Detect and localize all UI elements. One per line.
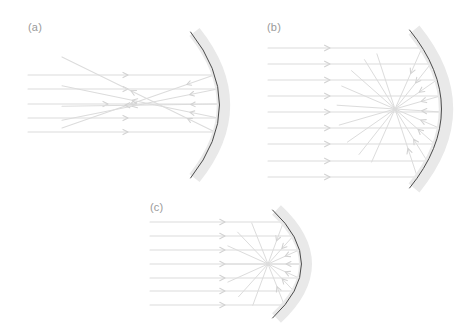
panel-a-label: (a) xyxy=(28,21,42,33)
optics-figure: (a) (b) (c) xyxy=(0,0,471,328)
panel-c-label: (c) xyxy=(150,201,163,213)
ray-diagram-canvas: (a) (b) (c) xyxy=(0,0,471,328)
panel-b-label: (b) xyxy=(267,21,281,33)
